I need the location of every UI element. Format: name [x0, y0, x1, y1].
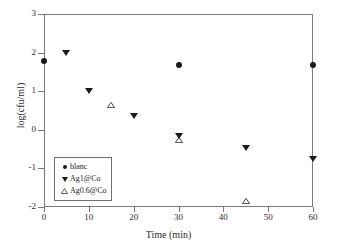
x-axis-title: Time (min): [0, 229, 337, 240]
legend-label: Ag0.6@Co: [70, 187, 106, 195]
legend-triangle-up-open-icon: [59, 188, 70, 194]
x-tick-label: 50: [253, 213, 283, 222]
data-point-triangle-down: [242, 145, 250, 151]
legend-item: Ag0.6@Co: [59, 185, 107, 197]
y-axis-title: log(cfu/ml): [15, 56, 26, 156]
data-point-triangle-up-open: [107, 102, 115, 108]
y-tick-label: -2: [0, 202, 36, 211]
data-point-circle: [310, 62, 316, 68]
y-tick-mark: [38, 53, 44, 54]
legend-item: Ag1@Co: [59, 173, 107, 185]
data-point-triangle-up-open: [175, 137, 183, 143]
data-point-circle: [176, 62, 182, 68]
data-point-triangle-down: [309, 156, 317, 162]
y-tick-mark: [38, 168, 44, 169]
x-tick-label: 40: [208, 213, 238, 222]
y-tick-mark: [38, 14, 44, 15]
x-tick-label: 20: [119, 213, 149, 222]
x-tick-label: 30: [164, 213, 194, 222]
legend-label: Ag1@Co: [70, 175, 100, 183]
x-tick-label: 10: [74, 213, 104, 222]
x-tick-label: 0: [29, 213, 59, 222]
y-tick-mark: [38, 91, 44, 92]
y-tick-label: 3: [0, 9, 36, 18]
x-tick-label: 60: [298, 213, 328, 222]
data-point-triangle-down: [130, 113, 138, 119]
legend-item: blanc: [59, 161, 107, 173]
data-point-triangle-up-open: [242, 198, 250, 204]
legend-circle-icon: [59, 165, 70, 169]
data-point-triangle-down: [85, 88, 93, 94]
legend-triangle-down-icon: [59, 177, 70, 182]
y-tick-label: -1: [0, 163, 36, 172]
legend: blancAg1@CoAg0.6@Co: [54, 157, 112, 201]
legend-label: blanc: [70, 163, 87, 171]
data-point-triangle-down: [62, 50, 70, 56]
scatter-plot-figure: 3210-1-2 0102030405060 log(cfu/ml) Time …: [0, 0, 337, 250]
y-tick-mark: [38, 130, 44, 131]
